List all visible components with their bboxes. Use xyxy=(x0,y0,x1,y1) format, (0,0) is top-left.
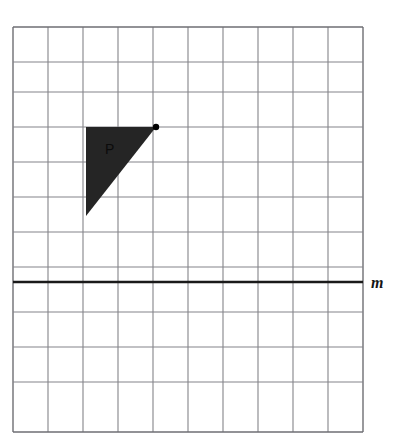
line-label-m: m xyxy=(371,274,383,291)
figure-canvas: P m xyxy=(0,0,399,448)
shape-label-p: P xyxy=(105,141,114,157)
vertex-point-marker xyxy=(153,124,159,130)
geometry-figure: P m xyxy=(0,0,399,448)
